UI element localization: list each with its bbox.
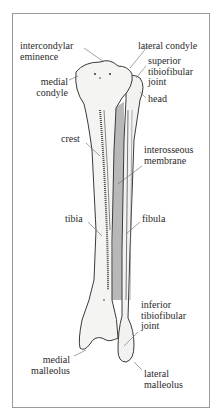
label-crest: crest — [61, 134, 80, 145]
label-intercondylar-eminence: intercondylar eminence — [20, 41, 73, 62]
label-medial-condyle: medial condyle — [30, 77, 68, 98]
label-lateral-malleolus: lateral malleolus — [144, 369, 183, 390]
label-tibia: tibia — [65, 214, 83, 225]
label-fibula: fibula — [142, 214, 165, 225]
label-head: head — [148, 94, 167, 105]
label-interosseous-membrane: interosseous membrane — [144, 145, 193, 166]
label-superior-tibiofibular-joint: superior tibiofibular joint — [148, 56, 193, 88]
label-lateral-condyle: lateral condyle — [138, 41, 197, 52]
label-inferior-tibiofibular-joint: inferior tibiofibular joint — [141, 300, 186, 332]
label-medial-malleolus: medial malleolus — [28, 355, 70, 376]
